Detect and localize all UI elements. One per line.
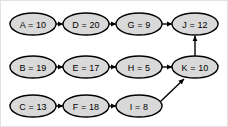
node-label-c: C = 13 (19, 102, 46, 112)
node-d[interactable]: D = 20 (63, 13, 109, 35)
node-label-k: K = 10 (182, 63, 209, 73)
node-label-g: G = 9 (128, 20, 151, 30)
node-a[interactable]: A = 10 (10, 13, 56, 35)
node-i[interactable]: I = 8 (116, 95, 162, 117)
node-label-f: F = 18 (73, 102, 99, 112)
edge-i-to-k (160, 79, 184, 102)
node-label-d: D = 20 (72, 20, 99, 30)
node-e[interactable]: E = 17 (63, 56, 109, 78)
diagram-canvas: A = 10D = 20G = 9J = 12B = 19E = 17H = 5… (0, 0, 228, 127)
node-label-h: H = 5 (128, 63, 150, 73)
node-label-b: B = 19 (20, 63, 47, 73)
node-h[interactable]: H = 5 (116, 56, 162, 78)
node-k[interactable]: K = 10 (172, 56, 218, 78)
node-label-e: E = 17 (73, 63, 100, 73)
node-label-i: I = 8 (130, 102, 148, 112)
node-j[interactable]: J = 12 (172, 13, 218, 35)
node-label-j: J = 12 (182, 20, 207, 30)
nodes-layer: A = 10D = 20G = 9J = 12B = 19E = 17H = 5… (10, 13, 218, 117)
node-f[interactable]: F = 18 (63, 95, 109, 117)
node-g[interactable]: G = 9 (116, 13, 162, 35)
node-b[interactable]: B = 19 (10, 56, 56, 78)
node-label-a: A = 10 (20, 20, 46, 30)
node-c[interactable]: C = 13 (10, 95, 56, 117)
graph-svg: A = 10D = 20G = 9J = 12B = 19E = 17H = 5… (1, 1, 228, 127)
